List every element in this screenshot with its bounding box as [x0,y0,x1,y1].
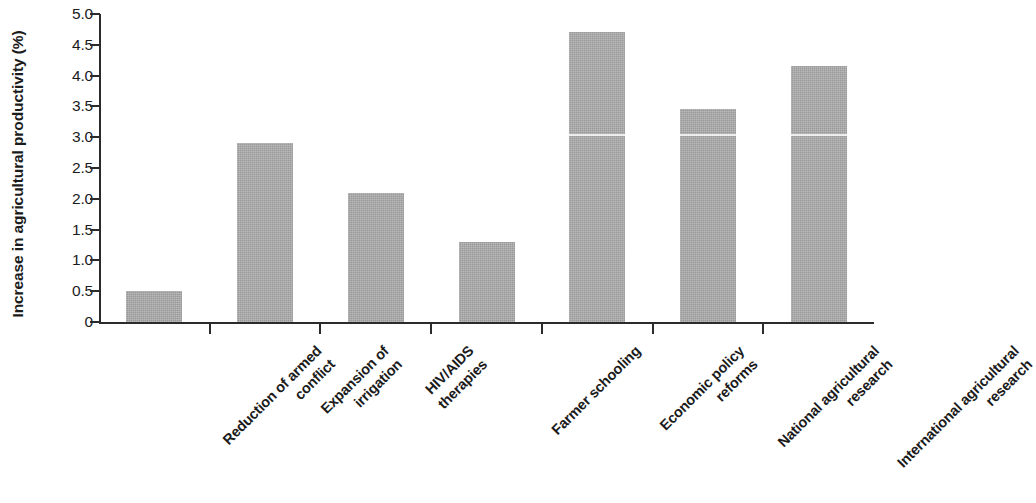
x-axis-label: HIV/AIDStherapies [420,342,490,412]
x-axis-label-line: Farmer schooling [547,342,644,439]
x-axis-label: Economic policyreforms [656,342,762,448]
x-axis-label: Expansion ofirrigation [317,342,406,431]
x-axis-label-line: research [906,355,1036,485]
x-axis-label: Farmer schooling [547,342,644,439]
x-axis-label: National agriculturalresearch [774,342,896,464]
x-axis-label-line: International agricultural [893,342,1023,472]
x-axis-label: International agriculturalresearch [893,342,1036,485]
